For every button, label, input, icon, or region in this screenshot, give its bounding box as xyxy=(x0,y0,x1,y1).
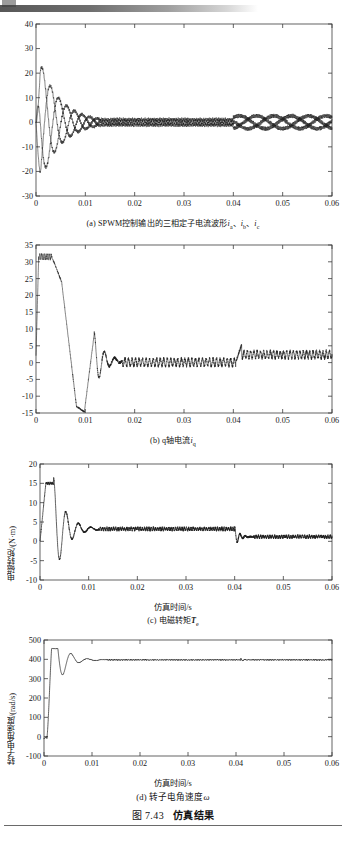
svg-text:20: 20 xyxy=(25,291,33,300)
svg-text:-10: -10 xyxy=(22,143,33,152)
plot-c-ylabel: 电磁转矩/(N·m) xyxy=(7,466,19,581)
svg-text:15: 15 xyxy=(29,479,37,488)
plot-c-xlabel: 仿真时间/s xyxy=(0,600,346,612)
svg-text:0.01: 0.01 xyxy=(78,199,92,208)
svg-text:0.04: 0.04 xyxy=(228,583,242,592)
caption-c-prefix: (c) xyxy=(147,616,156,625)
scan-top-smudge xyxy=(0,5,258,12)
svg-text:300: 300 xyxy=(29,675,41,684)
svg-text:0.05: 0.05 xyxy=(276,583,290,592)
caption-d-text: 转子电角速度 xyxy=(149,792,204,802)
svg-text:-10: -10 xyxy=(22,392,33,401)
svg-text:0.05: 0.05 xyxy=(276,416,290,425)
svg-text:30: 30 xyxy=(25,44,33,53)
plot-d-ylabel: 转子电角速度/(rad/s) xyxy=(7,640,19,765)
svg-text:10: 10 xyxy=(25,94,33,103)
svg-text:0.01: 0.01 xyxy=(78,416,92,425)
caption-b: (b) q轴电流iq xyxy=(0,434,346,447)
svg-text:0.06: 0.06 xyxy=(325,199,339,208)
svg-text:100: 100 xyxy=(29,713,41,722)
figure-caption: 图 7.43 仿真结果 xyxy=(0,807,346,822)
plot-a: 00.010.020.030.040.050.06-30-20-10010203… xyxy=(0,16,346,216)
svg-text:500: 500 xyxy=(29,636,41,645)
svg-text:-5: -5 xyxy=(26,375,33,384)
svg-text:0.06: 0.06 xyxy=(325,583,339,592)
svg-text:0.04: 0.04 xyxy=(229,759,243,768)
svg-text:15: 15 xyxy=(25,308,33,317)
svg-text:0.01: 0.01 xyxy=(85,759,99,768)
figure-panel-d: 转子电角速度/(rad/s) 00.010.020.030.040.050.06… xyxy=(0,632,346,822)
svg-text:0.03: 0.03 xyxy=(179,583,193,592)
page-bottom-rule xyxy=(4,825,342,826)
svg-text:0.01: 0.01 xyxy=(82,583,96,592)
svg-text:-100: -100 xyxy=(26,752,41,761)
svg-text:0: 0 xyxy=(37,733,41,742)
caption-c: (c) 电磁转矩Te xyxy=(0,614,346,627)
svg-text:0: 0 xyxy=(34,416,38,425)
caption-d-sym: ω xyxy=(204,792,210,802)
svg-text:0.03: 0.03 xyxy=(177,199,191,208)
svg-text:35: 35 xyxy=(25,241,33,250)
svg-text:0.03: 0.03 xyxy=(177,416,191,425)
plot-d: 转子电角速度/(rad/s) 00.010.020.030.040.050.06… xyxy=(0,632,346,776)
plot-d-xlabel: 仿真时间/s xyxy=(0,776,346,788)
svg-text:0: 0 xyxy=(33,537,37,546)
svg-text:0.02: 0.02 xyxy=(128,199,142,208)
svg-text:0: 0 xyxy=(29,359,33,368)
figure-title: 仿真结果 xyxy=(173,810,215,821)
svg-text:0.02: 0.02 xyxy=(128,416,142,425)
svg-text:-5: -5 xyxy=(30,557,37,566)
svg-text:200: 200 xyxy=(29,694,41,703)
svg-text:-20: -20 xyxy=(22,167,33,176)
svg-text:10: 10 xyxy=(29,499,37,508)
svg-text:5: 5 xyxy=(29,342,33,351)
caption-a-prefix: (a) xyxy=(87,219,96,228)
svg-text:0.02: 0.02 xyxy=(133,759,147,768)
svg-text:10: 10 xyxy=(25,325,33,334)
svg-text:0.05: 0.05 xyxy=(277,759,291,768)
caption-b-text: q轴电流 xyxy=(162,436,190,445)
svg-text:-10: -10 xyxy=(26,576,37,585)
plot-c-canvas: 00.010.020.030.040.050.06-10-505101520 xyxy=(0,456,346,600)
figure-panel-c: 电磁转矩/(N·m) 00.010.020.030.040.050.06-10-… xyxy=(0,456,346,627)
svg-text:5: 5 xyxy=(33,518,37,527)
svg-text:0.04: 0.04 xyxy=(226,416,240,425)
figure-number: 图 7.43 xyxy=(132,810,164,821)
plot-b: 00.010.020.030.040.050.06-15-10-50510152… xyxy=(0,237,346,433)
svg-text:0.02: 0.02 xyxy=(130,583,144,592)
svg-text:-15: -15 xyxy=(22,409,33,418)
svg-text:0: 0 xyxy=(42,759,46,768)
plot-b-canvas: 00.010.020.030.040.050.06-15-10-50510152… xyxy=(0,237,346,433)
caption-b-prefix: (b) xyxy=(150,436,160,445)
svg-text:30: 30 xyxy=(25,258,33,267)
svg-text:0.06: 0.06 xyxy=(325,416,339,425)
svg-text:0: 0 xyxy=(34,199,38,208)
svg-text:40: 40 xyxy=(25,20,33,29)
caption-d: (d) 转子电角速度ω xyxy=(0,790,346,802)
plot-d-canvas: 00.010.020.030.040.050.06-10001002003004… xyxy=(0,632,346,776)
caption-a: (a) SPWM控制输出的三相定子电流波形ia、ib、ic xyxy=(0,217,346,230)
caption-c-text: 电磁转矩 xyxy=(159,616,191,625)
book-page: 00.010.020.030.040.050.06-30-20-10010203… xyxy=(0,0,346,843)
svg-text:0: 0 xyxy=(29,118,33,127)
figure-panel-a: 00.010.020.030.040.050.06-30-20-10010203… xyxy=(0,16,346,230)
svg-text:-30: -30 xyxy=(22,192,33,201)
plot-c: 电磁转矩/(N·m) 00.010.020.030.040.050.06-10-… xyxy=(0,456,346,600)
figure-panel-b: 00.010.020.030.040.050.06-15-10-50510152… xyxy=(0,237,346,447)
caption-d-prefix: (d) xyxy=(136,792,146,802)
svg-text:0.03: 0.03 xyxy=(181,759,195,768)
svg-text:0.06: 0.06 xyxy=(325,759,339,768)
svg-text:20: 20 xyxy=(25,69,33,78)
svg-text:20: 20 xyxy=(29,460,37,469)
caption-a-text: SPWM控制输出的三相定子电流波形 xyxy=(98,219,228,228)
svg-text:0.04: 0.04 xyxy=(226,199,240,208)
plot-a-canvas: 00.010.020.030.040.050.06-30-20-10010203… xyxy=(0,16,346,216)
svg-text:400: 400 xyxy=(29,655,41,664)
svg-text:0: 0 xyxy=(38,583,42,592)
svg-text:0.05: 0.05 xyxy=(276,199,290,208)
svg-text:25: 25 xyxy=(25,275,33,284)
